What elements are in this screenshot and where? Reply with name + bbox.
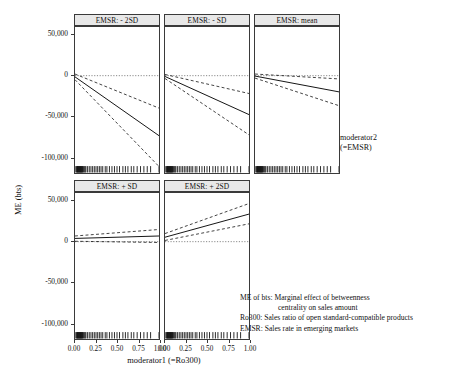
lower-ci-line — [165, 224, 249, 241]
caption-line-2: centrality on sales amount — [240, 303, 413, 313]
y-axis-tick — [71, 75, 74, 76]
upper-ci-line — [75, 230, 159, 236]
caption-line-4: EMSR: Sales rate in emerging markets — [240, 324, 413, 334]
figure-caption: ME of bts: Marginal effect of betweennes… — [240, 293, 413, 334]
y-axis-tick — [71, 324, 74, 325]
y-axis-tick-label: 0 — [16, 237, 68, 245]
upper-ci-line — [75, 74, 159, 108]
caption-line-1: ME of bts: Marginal effect of betweennes… — [240, 293, 413, 303]
y-axis-tick-label: -50,000 — [16, 278, 68, 286]
lower-ci-line — [75, 80, 159, 167]
x-axis-tick-label: 0.25 — [175, 345, 197, 353]
panel-strip-label: EMSR: - 2SD — [74, 14, 160, 26]
y-axis-tick-label: 50,000 — [16, 196, 68, 204]
x-axis-tick-label: 0.25 — [85, 345, 107, 353]
marginal-effects-figure: ME (bts) EMSR: - 2SD50,0000-50,000-100,0… — [0, 0, 451, 379]
x-axis-tick-label: 0.00 — [153, 345, 175, 353]
y-axis-tick-label: -100,000 — [16, 154, 68, 162]
x-axis-tick — [74, 340, 75, 343]
x-axis-tick — [186, 340, 187, 343]
x-axis-tick-label: 0.75 — [128, 345, 150, 353]
x-axis-tick — [250, 340, 251, 343]
x-axis-title: moderator1 (=Ro300) — [74, 356, 254, 365]
lower-ci-line — [165, 79, 249, 135]
y-axis-tick-label: 0 — [16, 71, 68, 79]
panel-strip-label: EMSR: - SD — [164, 14, 250, 26]
y-axis-tick — [71, 200, 74, 201]
panel-plot-area — [254, 26, 340, 174]
estimate-line — [75, 236, 159, 238]
estimate-line — [255, 76, 339, 92]
y-axis-tick — [71, 241, 74, 242]
panel-strip-label: EMSR: + SD — [74, 180, 160, 192]
y-axis-tick-label: 50,000 — [16, 30, 68, 38]
panel-plot-area — [164, 192, 250, 340]
rug-marks — [256, 166, 339, 172]
panel-plot-area — [74, 192, 160, 340]
upper-ci-line — [165, 204, 249, 234]
y-axis-tick — [71, 34, 74, 35]
panel-canvas — [75, 193, 159, 339]
lower-ci-line — [255, 78, 339, 106]
x-axis-tick-label: 0.00 — [63, 345, 85, 353]
x-axis-tick-label: 1.00 — [239, 345, 261, 353]
legend-line-1: moderator2 — [340, 133, 377, 143]
x-axis-tick-label: 0.50 — [196, 345, 218, 353]
x-axis-tick — [229, 340, 230, 343]
rug-marks — [76, 166, 159, 172]
y-axis-tick — [71, 116, 74, 117]
x-axis-tick — [139, 340, 140, 343]
x-axis-tick — [160, 340, 161, 343]
y-axis-tick — [71, 158, 74, 159]
panel-canvas — [165, 27, 249, 173]
y-axis-tick-label: -100,000 — [16, 320, 68, 328]
estimate-line — [165, 214, 249, 237]
rug-marks — [166, 332, 249, 338]
x-axis-tick — [117, 340, 118, 343]
panel-strip-label: EMSR: + 2SD — [164, 180, 250, 192]
x-axis-tick-label: 0.75 — [218, 345, 240, 353]
y-axis-tick — [71, 282, 74, 283]
panel-canvas — [75, 27, 159, 173]
panel-plot-area — [164, 26, 250, 174]
estimate-line — [75, 77, 159, 136]
panel-canvas — [165, 193, 249, 339]
estimate-line — [165, 76, 249, 114]
panel-plot-area — [74, 26, 160, 174]
upper-ci-line — [165, 74, 249, 93]
x-axis-tick — [207, 340, 208, 343]
caption-line-3: Ro300: Sales ratio of open standard-comp… — [240, 313, 413, 323]
panel-strip-label: EMSR: mean — [254, 14, 340, 26]
legend-moderator2: moderator2 (=EMSR) — [340, 133, 377, 153]
rug-marks — [76, 332, 159, 338]
x-axis-tick — [164, 340, 165, 343]
y-axis-tick-label: -50,000 — [16, 112, 68, 120]
x-axis-tick — [96, 340, 97, 343]
legend-line-2: (=EMSR) — [340, 143, 377, 153]
panel-canvas — [255, 27, 339, 173]
x-axis-tick-label: 0.50 — [106, 345, 128, 353]
rug-marks — [166, 166, 249, 172]
